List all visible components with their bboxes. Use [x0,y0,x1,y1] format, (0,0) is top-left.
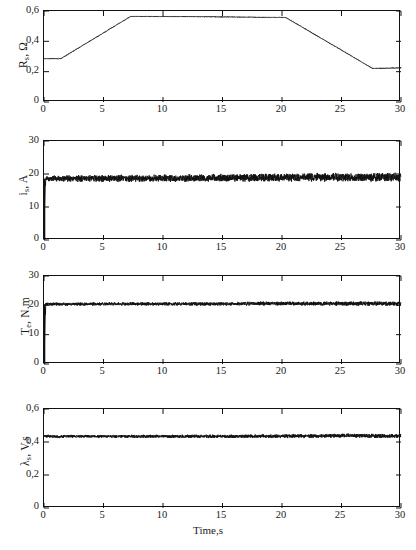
plot-curve-panel-3 [44,409,401,508]
x-tick-label-panel-2-4: 20 [268,365,294,376]
plot-curve-panel-1 [44,141,401,240]
x-tick-label-panel-1-5: 25 [327,241,353,252]
plot-curve-panel-0 [44,11,401,102]
x-tick-label-panel-1-1: 5 [89,241,115,252]
x-tick-label-panel-1-3: 15 [208,241,234,252]
figure-container: Rs, Ω 0,6 0,4 0,2 0 0 5 10 15 20 25 30 i… [0,0,416,550]
x-tick-label-panel-1-2: 10 [149,241,175,252]
y-tick-label-panel-1-2: 10 [8,200,39,211]
plot-area-panel-2 [43,275,400,363]
y-tick-label-panel-3-2: 0,2 [8,468,39,479]
y-tick-label-panel-0-1: 0,4 [8,34,39,45]
panel-stator-flux-linkage: λs, V.s 0,6 0,4 0,2 0 0 5 10 15 20 25 30… [0,398,416,550]
x-tick-label-panel-0-5: 25 [327,103,353,114]
x-tick-label-panel-2-3: 15 [208,365,234,376]
x-tick-label-panel-2-0: 0 [30,365,56,376]
panel-electromagnetic-torque: Te, N.m 30 20 10 0 0 5 10 15 20 25 30 [0,265,416,395]
y-axis-label-symbol-panel-3: λ [19,460,31,466]
x-tick-label-panel-3-1: 5 [89,509,115,520]
x-tick-label-panel-0-2: 10 [149,103,175,114]
panel-stator-resistance: Rs, Ω 0,6 0,4 0,2 0 0 5 10 15 20 25 30 [0,0,416,130]
y-tick-label-panel-2-0: 30 [8,269,39,280]
x-tick-label-panel-3-0: 0 [30,509,56,520]
panel-stator-current: is, A 30 20 10 0 0 5 10 15 20 25 30 [0,130,416,260]
x-tick-label-panel-3-3: 15 [208,509,234,520]
plot-area-panel-0 [43,10,400,101]
x-tick-label-panel-0-3: 15 [208,103,234,114]
plot-area-panel-1 [43,140,400,239]
x-tick-label-panel-3-2: 10 [149,509,175,520]
y-tick-label-panel-3-1: 0,4 [8,435,39,446]
y-tick-label-panel-0-0: 0,6 [8,4,39,15]
plot-curve-panel-2 [44,276,401,364]
y-tick-label-panel-1-1: 20 [8,167,39,178]
y-tick-label-panel-2-1: 20 [8,298,39,309]
x-tick-label-panel-0-6: 30 [387,103,413,114]
y-tick-label-panel-3-0: 0,6 [8,402,39,413]
x-tick-label-panel-3-4: 20 [268,509,294,520]
y-tick-label-panel-0-2: 0,2 [8,64,39,75]
x-tick-label-panel-2-1: 5 [89,365,115,376]
y-axis-label-panel-2: Te, N.m [19,282,33,350]
x-tick-label-panel-2-6: 30 [387,365,413,376]
y-axis-label-subscript-panel-0: s [22,57,31,60]
x-tick-label-panel-3-5: 25 [327,509,353,520]
x-tick-label-panel-0-0: 0 [30,103,56,114]
y-axis-label-subscript-panel-3: s [24,457,33,460]
y-axis-label-symbol-panel-1: i [17,192,29,195]
y-tick-label-panel-2-2: 10 [8,327,39,338]
y-tick-label-panel-1-0: 30 [8,134,39,145]
x-tick-label-panel-1-4: 20 [268,241,294,252]
x-tick-label-panel-1-0: 0 [30,241,56,252]
x-tick-label-panel-3-6: 30 [387,509,413,520]
x-tick-label-panel-1-6: 30 [387,241,413,252]
x-tick-label-panel-2-2: 10 [149,365,175,376]
x-tick-label-panel-2-5: 25 [327,365,353,376]
x-axis-label: Time,s [0,524,416,536]
y-axis-label-subscript-panel-1: s [22,189,31,192]
plot-area-panel-3 [43,408,400,507]
x-tick-label-panel-0-4: 20 [268,103,294,114]
x-tick-label-panel-0-1: 5 [89,103,115,114]
